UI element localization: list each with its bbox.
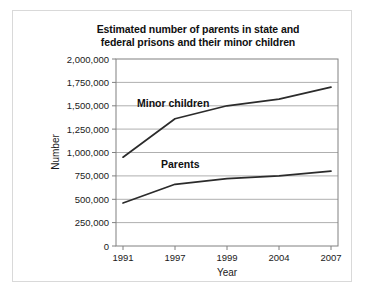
series-label-minor-children: Minor children	[137, 97, 209, 109]
y-tick-label-2000000: 2,000,000	[67, 54, 109, 65]
y-tick-label-750000: 750,000	[75, 170, 109, 181]
y-tick-label-1250000: 1,250,000	[67, 124, 109, 135]
y-tick-label-250000: 250,000	[75, 217, 109, 228]
x-tick-label-1997: 1997	[164, 252, 185, 263]
x-tick-label-1991: 1991	[112, 252, 133, 263]
line-chart-svg: 2,000,000 1,750,000 1,500,000 1,250,000 …	[13, 11, 353, 283]
plot-area-wrapper: 2,000,000 1,750,000 1,500,000 1,250,000 …	[13, 11, 353, 283]
y-tick-label-1000000: 1,000,000	[67, 147, 109, 158]
y-axis-title: Number	[50, 134, 61, 170]
series-label-parents: Parents	[161, 158, 200, 170]
y-tick-label-1500000: 1,500,000	[67, 100, 109, 111]
y-tick-label-0: 0	[104, 241, 109, 252]
y-tick-label-500000: 500,000	[75, 194, 109, 205]
x-axis-tick-labels: 1991 1997 1999 2004 2007	[112, 252, 341, 263]
y-tick-label-1750000: 1,750,000	[67, 77, 109, 88]
y-axis-tick-marks	[112, 59, 116, 246]
chart-figure: Estimated number of parents in state and…	[12, 10, 352, 282]
x-tick-label-2004: 2004	[268, 252, 289, 263]
x-axis-title: Year	[217, 267, 238, 278]
x-tick-label-2007: 2007	[320, 252, 341, 263]
y-axis-tick-labels: 2,000,000 1,750,000 1,500,000 1,250,000 …	[67, 54, 109, 252]
x-axis-tick-marks	[123, 246, 331, 250]
x-tick-label-1999: 1999	[216, 252, 237, 263]
